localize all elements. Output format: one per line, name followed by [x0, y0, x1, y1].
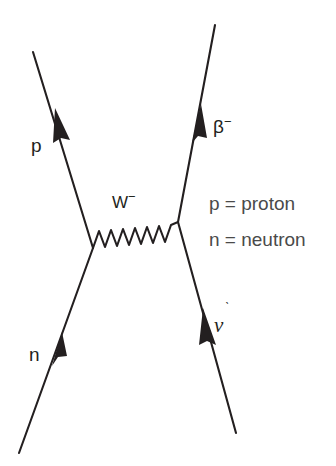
neutron-label: n — [29, 345, 40, 364]
neutron-arrowhead — [52, 332, 67, 366]
beta-symbol: β — [213, 116, 224, 137]
w-boson-label: W− — [112, 190, 136, 211]
w-boson-symbol: W — [112, 193, 128, 212]
neutrino-tick-mark: ˋ — [225, 301, 229, 314]
legend-item-proton: p = proton — [209, 194, 295, 213]
proton-arrowhead — [53, 108, 70, 143]
feynman-diagram-canvas: p n W− β− ν ˋ p = proton n = neutron — [0, 0, 336, 466]
w-boson-charge: − — [128, 189, 136, 204]
legend-item-neutron: n = neutron — [209, 230, 306, 249]
beta-charge: − — [224, 114, 232, 129]
proton-label: p — [31, 136, 42, 155]
w-boson-propagator — [93, 222, 178, 248]
beta-label: β− — [213, 115, 232, 136]
neutrino-label: ν — [214, 315, 223, 336]
proton-line — [33, 52, 93, 248]
